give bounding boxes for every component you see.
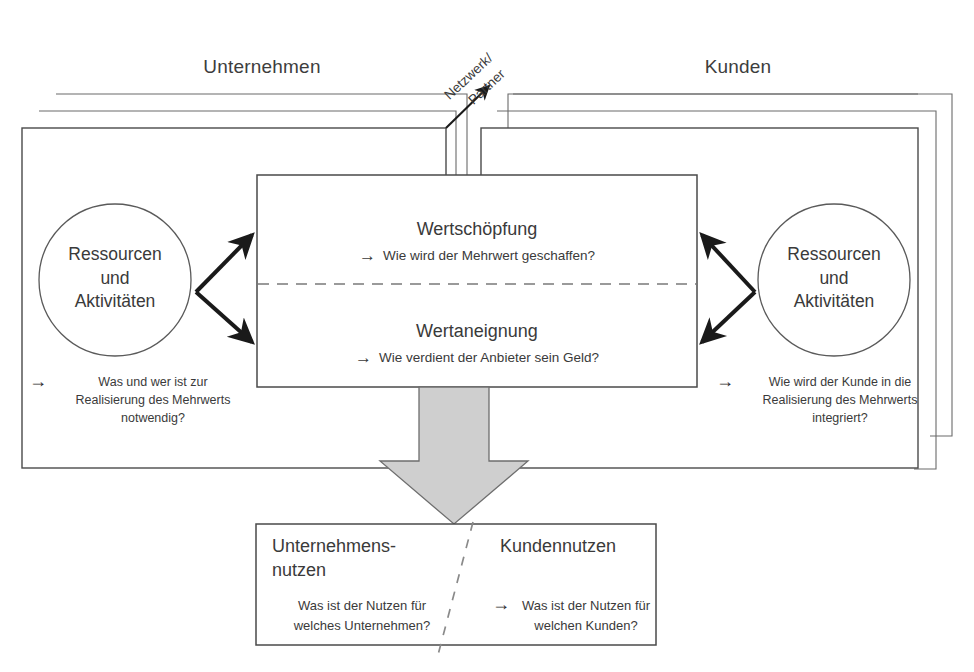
kundennutzen-arrow-icon: → bbox=[492, 595, 510, 613]
benefit-flow-arrow bbox=[380, 387, 528, 524]
unternehmensnutzen-question-line2: welches Unternehmen? bbox=[272, 616, 452, 636]
wertaneignung-title: Wertaneignung bbox=[257, 320, 697, 343]
wertaneignung-arrow-icon: → bbox=[355, 348, 372, 367]
right-circle-line1: Ressourcen bbox=[759, 243, 909, 267]
left-exchange-arrows bbox=[196, 235, 252, 342]
right-caption-line3: integriert? bbox=[740, 409, 940, 427]
right-caption: Wie wird der Kunde in die Realisierung d… bbox=[740, 373, 940, 427]
netzwerk-partner-label: Netzwerk/ Partner bbox=[440, 49, 511, 119]
unternehmensnutzen-title-line1: Unternehmens- bbox=[272, 535, 452, 559]
right-exchange-arrows bbox=[702, 235, 755, 342]
kundennutzen-question-line2: welchen Kunden? bbox=[512, 616, 660, 636]
right-circle-line3: Aktivitäten bbox=[759, 290, 909, 314]
left-panel-heading: Unternehmen bbox=[142, 55, 382, 79]
kundennutzen-title: Kundennutzen bbox=[500, 535, 680, 559]
wertaneignung-question-text: Wie verdient der Anbieter sein Geld? bbox=[379, 350, 599, 365]
right-circle-label: Ressourcen und Aktivitäten bbox=[759, 243, 909, 314]
wertschoepfung-title: Wertschöpfung bbox=[257, 218, 697, 241]
left-caption-line3: notwendig? bbox=[55, 409, 251, 427]
wertschoepfung-arrow-icon: → bbox=[359, 246, 376, 265]
right-arrow-down bbox=[702, 292, 755, 342]
right-caption-arrow-icon: → bbox=[716, 372, 734, 390]
kundennutzen-question-line1: Was ist der Nutzen für bbox=[512, 596, 660, 616]
right-circle-line2: und bbox=[759, 267, 909, 291]
right-caption-line1: Wie wird der Kunde in die bbox=[740, 373, 940, 391]
unternehmensnutzen-title-line2: nutzen bbox=[272, 559, 452, 583]
kundennutzen-question: Was ist der Nutzen für welchen Kunden? bbox=[512, 596, 660, 635]
diagram-canvas: Unternehmen Kunden Netzwerk/ Partner Res… bbox=[0, 0, 974, 672]
left-caption-line2: Realisierung des Mehrwerts bbox=[55, 391, 251, 409]
left-arrow-up bbox=[196, 235, 252, 292]
right-arrow-up bbox=[702, 235, 755, 292]
right-panel-heading: Kunden bbox=[618, 55, 858, 79]
left-circle-line3: Aktivitäten bbox=[40, 290, 190, 314]
wertschoepfung-question: →Wie wird der Mehrwert geschaffen? bbox=[257, 245, 697, 267]
right-caption-line2: Realisierung des Mehrwerts bbox=[740, 391, 940, 409]
left-circle-label: Ressourcen und Aktivitäten bbox=[40, 243, 190, 314]
left-caption-arrow-icon: → bbox=[29, 372, 47, 390]
unternehmensnutzen-question: Was ist der Nutzen für welches Unternehm… bbox=[272, 596, 452, 635]
wertschoepfung-question-text: Wie wird der Mehrwert geschaffen? bbox=[383, 248, 595, 263]
unternehmensnutzen-title: Unternehmens- nutzen bbox=[272, 535, 452, 583]
left-caption: Was und wer ist zur Realisierung des Meh… bbox=[55, 373, 251, 427]
left-caption-line1: Was und wer ist zur bbox=[55, 373, 251, 391]
wertaneignung-question: →Wie verdient der Anbieter sein Geld? bbox=[257, 347, 697, 369]
left-arrow-down bbox=[196, 292, 252, 342]
left-circle-line1: Ressourcen bbox=[40, 243, 190, 267]
unternehmensnutzen-question-line1: Was ist der Nutzen für bbox=[272, 596, 452, 616]
left-circle-line2: und bbox=[40, 267, 190, 291]
